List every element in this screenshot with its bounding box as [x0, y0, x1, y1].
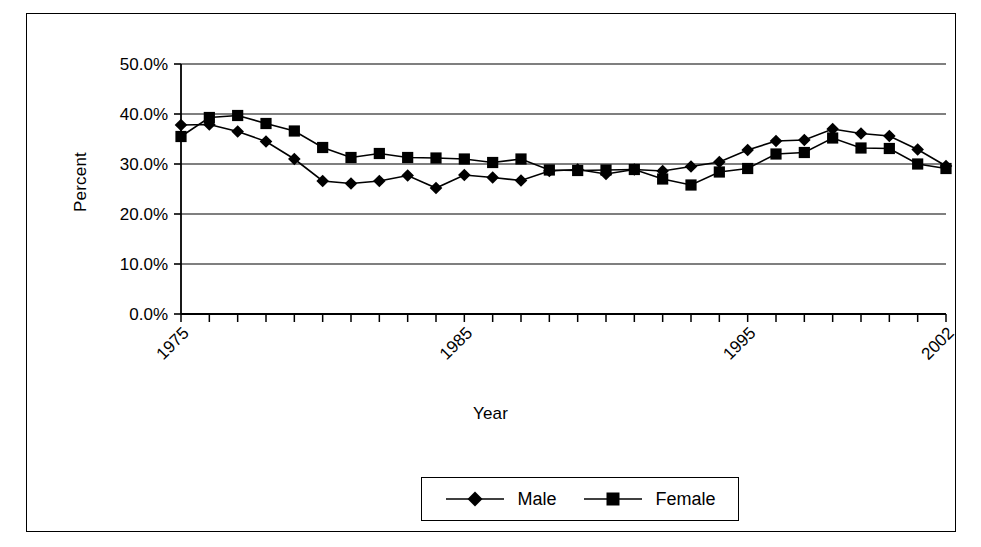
y-axis-title: Percent	[71, 122, 91, 242]
chart-frame: 0.0%10.0%20.0%30.0%40.0%50.0% 1975198519…	[26, 13, 956, 532]
x-axis-ticks	[181, 314, 946, 322]
data-series-layer	[175, 110, 953, 194]
y-axis-tick-labels: 0.0%10.0%20.0%30.0%40.0%50.0%	[120, 55, 168, 324]
legend-label-male: Male	[513, 489, 556, 510]
x-axis-title: Year	[0, 404, 981, 424]
gridlines	[181, 64, 946, 264]
svg-text:40.0%: 40.0%	[120, 105, 168, 124]
legend-entry-female: Female	[582, 489, 715, 510]
line-chart-plot: 0.0%10.0%20.0%30.0%40.0%50.0% 1975198519…	[27, 14, 955, 531]
svg-text:1985: 1985	[436, 323, 476, 363]
x-axis-tick-labels: 1975198519952002	[153, 323, 955, 363]
svg-text:2002: 2002	[918, 323, 955, 363]
diamond-marker-icon	[444, 489, 506, 509]
svg-text:1975: 1975	[153, 323, 193, 363]
legend-entry-male: Male	[444, 489, 556, 510]
square-marker-icon	[582, 489, 644, 509]
y-axis-ticks	[174, 64, 181, 314]
chart-page: 0.0%10.0%20.0%30.0%40.0%50.0% 1975198519…	[0, 0, 981, 547]
svg-text:50.0%: 50.0%	[120, 55, 168, 74]
svg-text:0.0%: 0.0%	[129, 305, 168, 324]
svg-text:30.0%: 30.0%	[120, 155, 168, 174]
chart-legend: Male Female	[421, 477, 739, 521]
legend-label-female: Female	[651, 489, 715, 510]
axis-lines	[181, 64, 946, 314]
svg-text:20.0%: 20.0%	[120, 205, 168, 224]
svg-text:1995: 1995	[719, 323, 759, 363]
svg-text:10.0%: 10.0%	[120, 255, 168, 274]
